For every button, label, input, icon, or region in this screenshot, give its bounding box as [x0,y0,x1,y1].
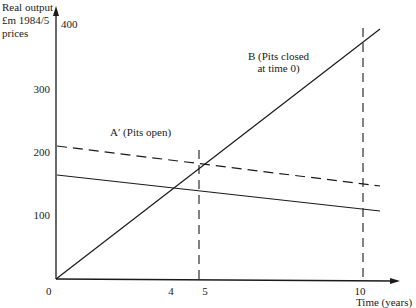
x-tick-5: 5 [195,285,215,297]
y-axis-label-line3: prices [2,27,53,40]
y-tick-0: 0 [46,285,52,297]
y-axis-label-line2: £m 1984/5 [2,14,53,27]
annotation-b-line2: at time 0) [248,62,309,74]
annotation-a-prime: A′ (Pits open) [110,126,171,138]
x-axis-label: Time (years) [356,296,412,308]
annotation-b-line1: B (Pits closed [248,50,309,62]
y-tick-100: 100 [24,209,50,221]
x-axis [56,279,394,281]
y-tick-300: 300 [24,83,50,95]
y-axis-arrow-icon [53,6,59,16]
x-tick-4: 4 [161,285,181,297]
series-b [56,29,380,279]
annotation-b: B (Pits closed at time 0) [248,50,309,74]
y-axis-label: Real output £m 1984/5 prices [2,1,53,40]
y-tick-200: 200 [24,146,50,158]
y-axis-label-line1: Real output [2,1,53,14]
y-tick-400: 400 [61,18,78,30]
x-axis-arrow-icon [390,278,400,284]
